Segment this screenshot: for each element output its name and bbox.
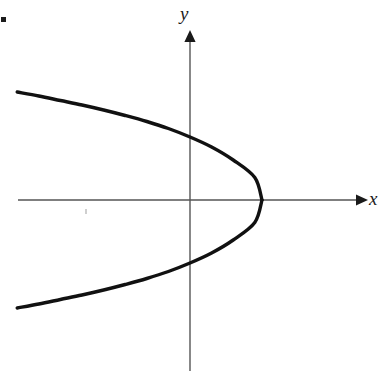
figure-container: y x	[0, 0, 390, 388]
axes-group	[18, 30, 368, 371]
x-axis-label: x	[369, 189, 377, 208]
parabola-graph-svg	[0, 0, 390, 388]
x-axis-arrow-icon	[356, 194, 368, 205]
parabola-upper-branch	[17, 92, 262, 200]
y-axis-label: y	[180, 4, 188, 23]
y-axis-arrow-icon	[184, 30, 195, 42]
parabola-lower-branch	[17, 200, 262, 308]
